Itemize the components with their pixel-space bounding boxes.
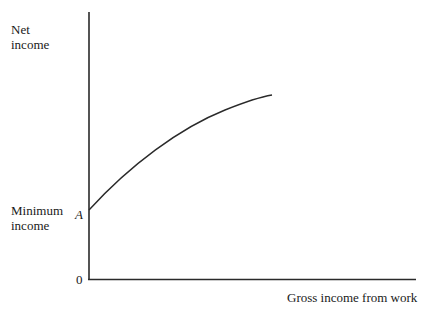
minimum-income-label: Minimum income [11,203,63,233]
y-axis-label: Net income [11,22,49,52]
y-axis-label-line1: Net [11,22,49,37]
x-axis-label: Gross income from work [287,290,417,305]
minimum-income-line2: income [11,218,63,233]
minimum-income-line1: Minimum [11,203,63,218]
diagram-canvas [0,0,424,311]
intercept-label: A [75,207,83,222]
net-income-curve [89,95,272,210]
y-axis-label-line2: income [11,37,49,52]
origin-label: 0 [76,272,83,287]
